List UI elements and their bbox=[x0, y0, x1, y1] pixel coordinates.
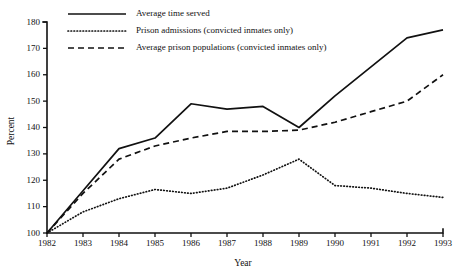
y-axis-title: Percent bbox=[6, 116, 16, 145]
y-tick-label: 140 bbox=[27, 122, 41, 132]
x-tick-label: 1991 bbox=[362, 238, 380, 248]
y-tick-label: 180 bbox=[27, 17, 41, 27]
line-chart: 100110120130140150160170180 198219831984… bbox=[0, 0, 457, 273]
x-tick-label: 1990 bbox=[326, 238, 345, 248]
y-tick-label: 120 bbox=[27, 175, 41, 185]
legend-label: Average time served bbox=[136, 8, 210, 18]
x-tick-label: 1982 bbox=[38, 238, 56, 248]
x-axis-line bbox=[47, 229, 443, 233]
x-axis-ticks: 1982198319841985198619871988198919901991… bbox=[38, 233, 453, 248]
y-tick-label: 170 bbox=[27, 43, 41, 53]
x-tick-label: 1986 bbox=[182, 238, 201, 248]
y-tick-label: 130 bbox=[27, 148, 41, 158]
legend-label: Average prison populations (convicted in… bbox=[136, 42, 327, 52]
legend-label: Prison admissions (convicted inmates onl… bbox=[136, 25, 293, 35]
x-tick-label: 1987 bbox=[218, 238, 237, 248]
series-line-dashed bbox=[47, 75, 443, 233]
y-tick-label: 150 bbox=[27, 96, 41, 106]
x-tick-label: 1985 bbox=[146, 238, 165, 248]
x-tick-label: 1988 bbox=[254, 238, 273, 248]
series-group bbox=[47, 30, 443, 233]
chart-container: 100110120130140150160170180 198219831984… bbox=[0, 0, 457, 273]
y-axis-ticks: 100110120130140150160170180 bbox=[27, 17, 48, 238]
x-axis-title: Year bbox=[234, 258, 252, 268]
y-tick-label: 160 bbox=[27, 69, 41, 79]
x-tick-label: 1989 bbox=[290, 238, 309, 248]
x-tick-label: 1993 bbox=[434, 238, 453, 248]
chart-legend: Average time servedPrison admissions (co… bbox=[68, 8, 327, 52]
y-tick-label: 110 bbox=[27, 201, 41, 211]
x-tick-label: 1983 bbox=[74, 238, 93, 248]
x-tick-label: 1992 bbox=[398, 238, 416, 248]
y-tick-label: 100 bbox=[27, 228, 41, 238]
x-tick-label: 1984 bbox=[110, 238, 129, 248]
series-line-dotted bbox=[47, 159, 443, 233]
